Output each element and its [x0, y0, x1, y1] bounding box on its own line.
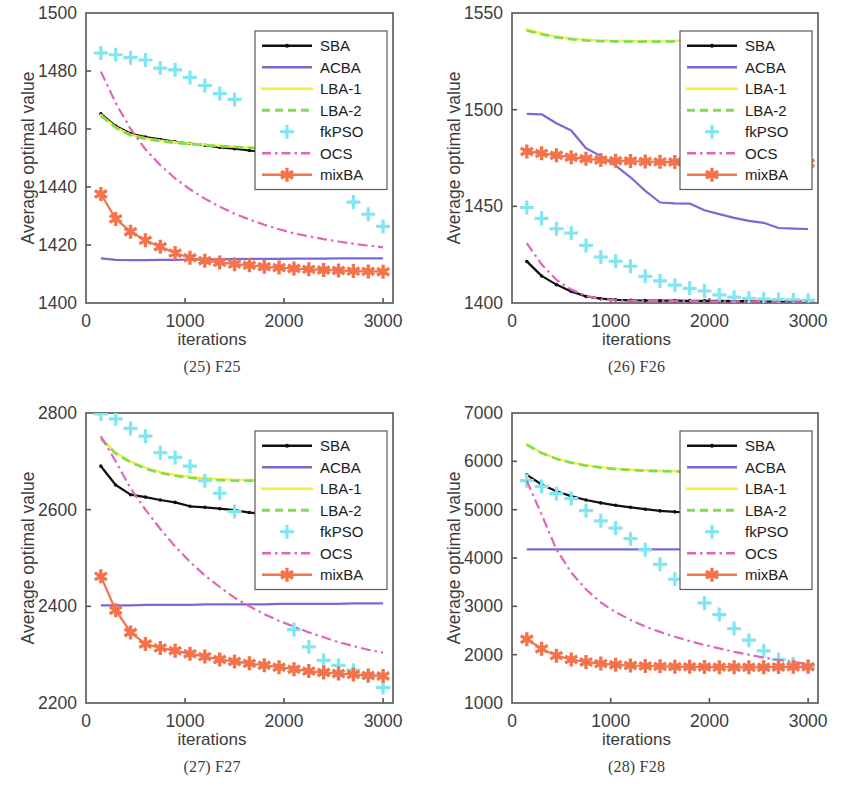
legend-label-ocs: OCS: [745, 145, 778, 162]
y-tick-label: 1400: [464, 293, 503, 313]
figure-grid: 0100020003000140014201440146014801500Ave…: [0, 0, 849, 803]
y-tick-label: 5000: [464, 500, 503, 520]
series-marker-fkpso: [579, 504, 593, 518]
panel-caption-f25: (25) F25: [0, 358, 424, 376]
series-marker-fkpso: [653, 274, 667, 288]
series-marker-mixba: [95, 187, 107, 201]
chart-svg: 0100020003000140014201440146014801500Ave…: [0, 0, 424, 330]
series-marker-fkpso: [786, 293, 800, 307]
series-marker-fkpso: [94, 407, 108, 421]
x-tick-label: 3000: [364, 711, 403, 730]
series-marker-sba: [158, 498, 162, 502]
y-tick-label: 2600: [38, 500, 77, 520]
chart-svg: 0100020003000100020003000400050006000700…: [424, 400, 849, 730]
series-marker-sba: [525, 260, 529, 264]
series-marker-fkpso: [623, 532, 637, 546]
series-marker-fkpso: [109, 48, 123, 62]
legend-label-mixba: mixBA: [320, 166, 363, 183]
series-marker-fkpso: [124, 51, 138, 65]
x-tick-label: 2000: [265, 711, 304, 730]
series-marker-sba: [129, 493, 133, 497]
series-marker-fkpso: [94, 46, 108, 60]
y-tick-label: 2400: [38, 596, 77, 616]
legend-key-marker-sba: [710, 444, 714, 448]
y-tick-label: 2800: [38, 403, 77, 423]
x-tick-label: 1000: [166, 711, 205, 730]
x-tick-label: 0: [507, 711, 517, 730]
series-marker-sba: [599, 501, 603, 505]
legend-label-acba: ACBA: [320, 459, 361, 476]
legend-label-lba-2: LBA-2: [320, 102, 362, 119]
legend-key-marker-sba: [710, 44, 714, 48]
series-marker-sba: [173, 501, 177, 505]
series-marker-fkpso: [228, 92, 242, 106]
legend-label-sba: SBA: [320, 437, 350, 454]
series-marker-sba: [584, 498, 588, 502]
series-marker-fkpso: [609, 521, 623, 535]
y-tick-label: 1460: [38, 119, 77, 139]
series-marker-fkpso: [361, 207, 375, 221]
series-marker-sba: [248, 149, 252, 153]
legend-label-lba-1: LBA-1: [320, 80, 362, 97]
x-tick-label: 0: [81, 711, 91, 730]
series-marker-fkpso: [535, 211, 549, 225]
y-tick-label: 7000: [464, 403, 503, 423]
series-marker-sba: [555, 283, 559, 287]
legend-label-acba: ACBA: [745, 459, 786, 476]
x-tick-label: 0: [81, 311, 91, 330]
series-marker-fkpso: [153, 61, 167, 75]
series-marker-fkpso: [727, 622, 741, 636]
series-marker-mixba: [521, 632, 533, 646]
series-marker-sba: [540, 274, 544, 278]
series-marker-mixba: [536, 642, 548, 656]
x-tick-label: 2000: [265, 311, 304, 330]
series-marker-sba: [188, 504, 192, 508]
x-axis-title-f27: iterations: [0, 730, 424, 750]
legend-label-lba-1: LBA-1: [745, 480, 787, 497]
x-axis-title-f28: iterations: [424, 730, 849, 750]
y-tick-label: 4000: [464, 548, 503, 568]
panel-caption-f28: (28) F28: [424, 758, 849, 776]
y-axis-title: Average optimal value: [18, 72, 38, 245]
legend-label-fkpso: fkPSO: [745, 523, 788, 540]
series-marker-fkpso: [213, 486, 227, 500]
series-marker-fkpso: [183, 459, 197, 473]
series-marker-fkpso: [228, 505, 242, 519]
x-tick-label: 1000: [591, 311, 630, 330]
series-marker-sba: [218, 507, 222, 511]
series-line-ocs: [527, 243, 808, 301]
y-tick-label: 2000: [464, 645, 503, 665]
x-tick-label: 2000: [690, 311, 729, 330]
legend-label-fkpso: fkPSO: [745, 123, 788, 140]
series-marker-fkpso: [124, 421, 138, 435]
y-tick-label: 1000: [464, 693, 503, 713]
series-marker-fkpso: [579, 238, 593, 252]
series-marker-fkpso: [168, 450, 182, 464]
legend-label-lba-2: LBA-2: [745, 102, 787, 119]
y-tick-label: 1480: [38, 61, 77, 81]
series-marker-sba: [248, 511, 252, 515]
series-marker-sba: [614, 504, 618, 508]
series-marker-fkpso: [138, 429, 152, 443]
legend-label-fkpso: fkPSO: [320, 123, 363, 140]
panel-caption-f26: (26) F26: [424, 358, 849, 376]
y-tick-label: 1400: [38, 293, 77, 313]
chart-svg: 01000200030001400145015001550Average opt…: [424, 0, 849, 330]
series-marker-fkpso: [213, 87, 227, 101]
x-tick-label: 1000: [591, 711, 630, 730]
y-tick-label: 2200: [38, 693, 77, 713]
series-marker-fkpso: [549, 222, 563, 236]
panel-f25: 0100020003000140014201440146014801500Ave…: [0, 0, 424, 400]
series-line-acba: [101, 603, 383, 605]
series-marker-fkpso: [623, 259, 637, 273]
series-marker-mixba: [139, 233, 151, 247]
y-axis-title: Average optimal value: [444, 72, 464, 245]
series-marker-fkpso: [138, 53, 152, 67]
chart-svg: 01000200030002200240026002800Average opt…: [0, 400, 424, 730]
series-marker-sba: [99, 464, 103, 468]
series-marker-sba: [643, 299, 647, 303]
series-marker-fkpso: [198, 474, 212, 488]
series-line-mixba: [527, 639, 808, 667]
series-marker-fkpso: [653, 557, 667, 571]
y-tick-label: 1440: [38, 177, 77, 197]
